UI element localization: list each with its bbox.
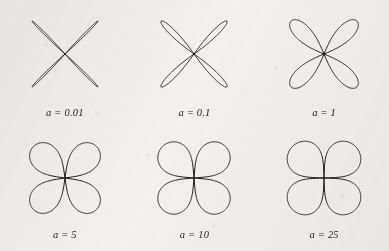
rose-petal bbox=[29, 178, 64, 213]
rose-plot bbox=[6, 126, 124, 230]
rose-petal bbox=[194, 54, 227, 87]
rose-petal bbox=[194, 141, 230, 177]
panel-label: a = 0.01 bbox=[46, 108, 84, 119]
panel-label: a = 5 bbox=[53, 230, 77, 241]
rose-panel: a = 10 bbox=[130, 126, 260, 251]
rose-plot bbox=[135, 126, 253, 230]
panel-label: a = 10 bbox=[180, 230, 209, 241]
rose-petal bbox=[65, 142, 100, 177]
rose-petal bbox=[161, 54, 194, 87]
rose-plot bbox=[265, 126, 383, 230]
rose-plot bbox=[265, 0, 383, 108]
rose-petal bbox=[290, 54, 324, 88]
rose-plot bbox=[6, 0, 124, 108]
rose-petal bbox=[158, 141, 194, 177]
panel-label: a = 1 bbox=[312, 108, 336, 119]
rose-plot bbox=[135, 0, 253, 108]
rose-petal bbox=[29, 142, 64, 177]
rose-panel: a = 25 bbox=[259, 126, 389, 251]
rose-petal bbox=[324, 20, 358, 54]
rose-petal bbox=[158, 178, 194, 214]
rose-petal bbox=[65, 178, 100, 213]
rose-petal bbox=[194, 21, 227, 54]
panel-label: a = 0.1 bbox=[178, 108, 210, 119]
rose-petal bbox=[161, 21, 194, 54]
rose-petal bbox=[32, 54, 65, 87]
rose-petal bbox=[287, 141, 324, 178]
rose-panel: a = 0.01 bbox=[0, 0, 130, 126]
rose-petal bbox=[287, 178, 324, 215]
rose-petal bbox=[194, 178, 230, 214]
figure-panel-grid: a = 0.01 a = 0.1 a = 1 a = 5 a = 10 a = … bbox=[0, 0, 389, 251]
rose-petal bbox=[65, 21, 98, 54]
rose-panel: a = 1 bbox=[259, 0, 389, 126]
rose-petal bbox=[32, 21, 65, 54]
rose-petal bbox=[290, 20, 324, 54]
panel-label: a = 25 bbox=[310, 230, 339, 241]
rose-panel: a = 5 bbox=[0, 126, 130, 251]
rose-panel: a = 0.1 bbox=[130, 0, 260, 126]
rose-petal bbox=[324, 178, 361, 215]
rose-petal bbox=[324, 141, 361, 178]
rose-petal bbox=[324, 54, 358, 88]
rose-petal bbox=[65, 54, 98, 87]
